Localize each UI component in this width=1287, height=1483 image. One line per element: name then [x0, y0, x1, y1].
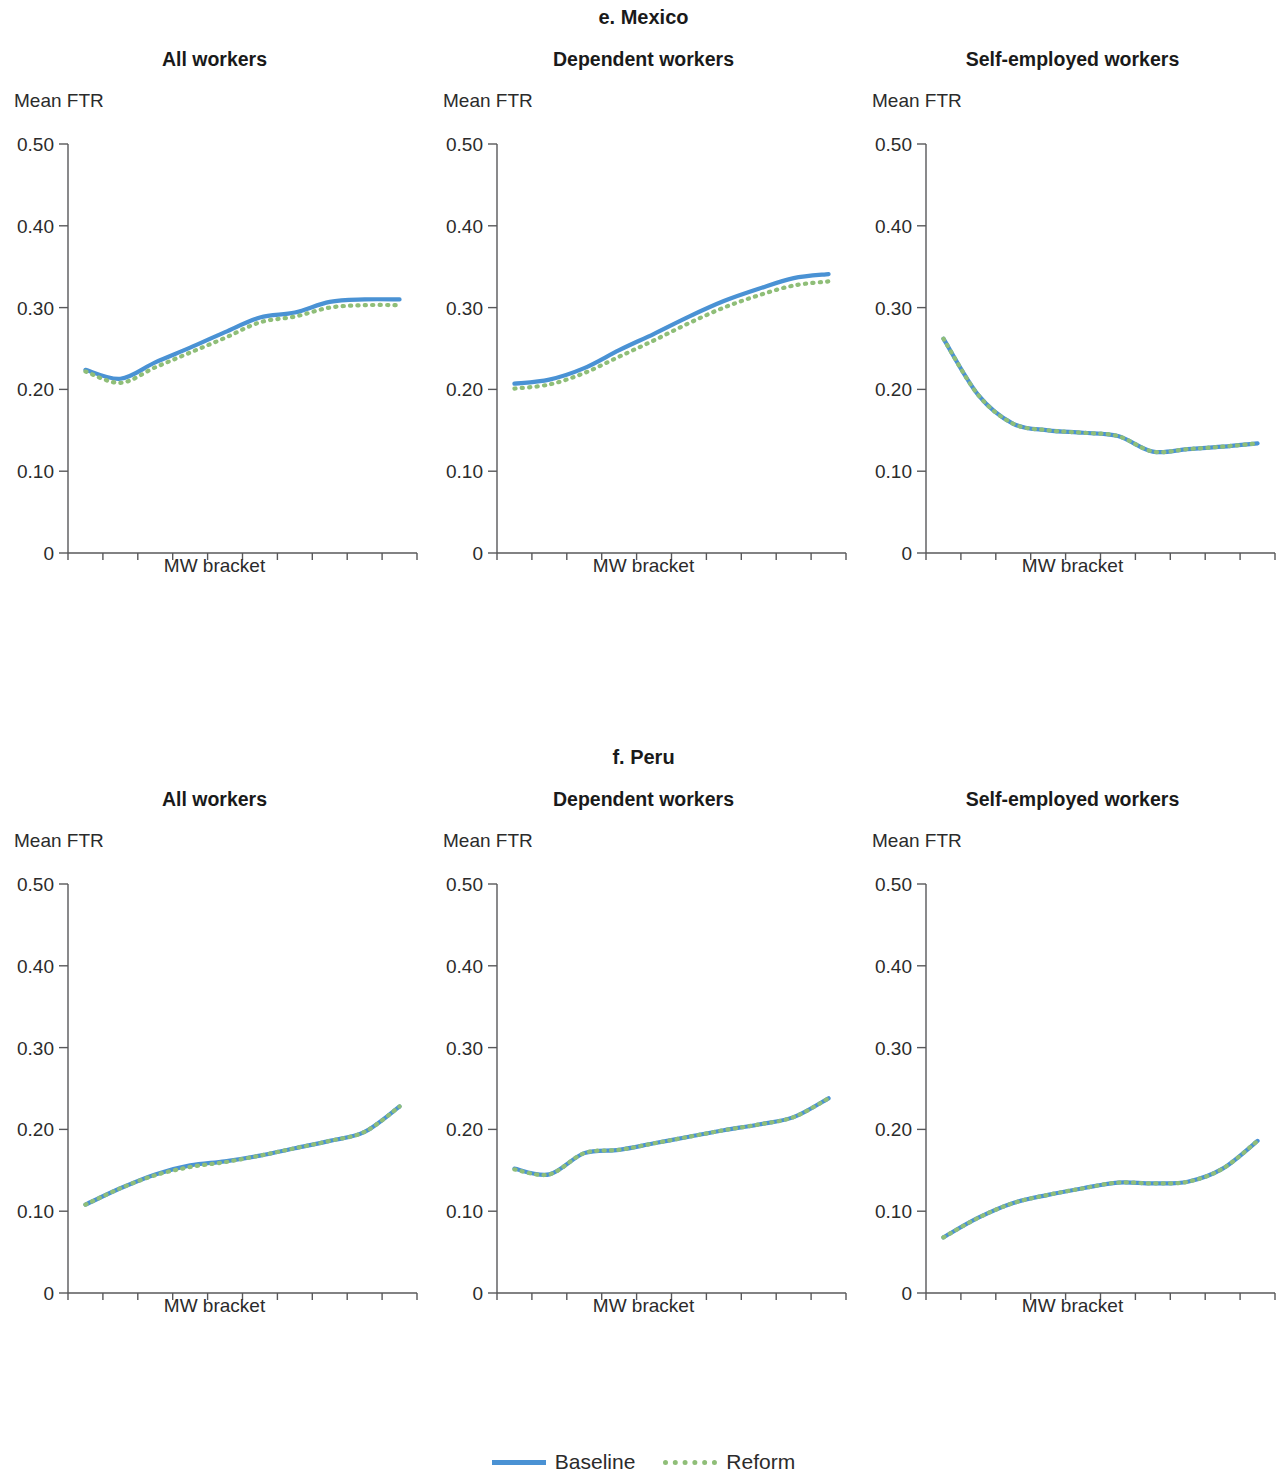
plot-area: 00.100.200.300.400.50[0, 0.5][0.5, 1.0][… [0, 740, 429, 1300]
svg-text:0.40: 0.40 [875, 216, 912, 237]
svg-text:0.20: 0.20 [17, 379, 54, 400]
series-line-baseline [514, 274, 828, 384]
svg-text:0.10: 0.10 [17, 1201, 54, 1222]
series-line-baseline [85, 299, 399, 379]
svg-text:0.30: 0.30 [446, 1038, 483, 1059]
svg-text:0.40: 0.40 [17, 216, 54, 237]
svg-text:0.40: 0.40 [17, 956, 54, 977]
legend-item-baseline: Baseline [492, 1449, 636, 1474]
svg-text:0.40: 0.40 [875, 956, 912, 977]
series-line-baseline [514, 1098, 828, 1175]
svg-text:0.20: 0.20 [446, 379, 483, 400]
x-axis-label: MW bracket [858, 1295, 1287, 1317]
series-line-reform [514, 281, 828, 388]
svg-text:0.50: 0.50 [17, 134, 54, 155]
svg-text:0.50: 0.50 [446, 874, 483, 895]
svg-text:0.30: 0.30 [875, 1038, 912, 1059]
panel-peru-self-employed-workers: Self-employed workers Mean FTR 00.100.20… [858, 740, 1287, 1360]
x-axis-label: MW bracket [858, 555, 1287, 577]
plot-area: 00.100.200.300.400.50[0, 0.5][0.5, 1.0][… [858, 0, 1287, 560]
series-line-baseline [85, 1107, 399, 1205]
svg-text:0.10: 0.10 [875, 461, 912, 482]
svg-text:0.30: 0.30 [17, 298, 54, 319]
svg-text:0.10: 0.10 [17, 461, 54, 482]
svg-text:0.50: 0.50 [875, 874, 912, 895]
svg-text:0.20: 0.20 [17, 1119, 54, 1140]
series-line-baseline [943, 1141, 1257, 1238]
x-axis-label: MW bracket [429, 555, 858, 577]
panel-mexico-self-employed-workers: Self-employed workers Mean FTR 00.100.20… [858, 0, 1287, 620]
svg-text:0.50: 0.50 [17, 874, 54, 895]
plot-area: 00.100.200.300.400.50[0, 0.5][0.5, 1.0][… [0, 0, 429, 560]
svg-text:0.50: 0.50 [446, 134, 483, 155]
panel-peru-dependent-workers: Dependent workers Mean FTR 00.100.200.30… [429, 740, 858, 1360]
svg-text:0.30: 0.30 [17, 1038, 54, 1059]
section-mexico: e. Mexico All workers Mean FTR 00.100.20… [0, 0, 1287, 740]
plot-area: 00.100.200.300.400.50[0, 0.5][0.5, 1.0][… [858, 740, 1287, 1300]
svg-text:0.30: 0.30 [446, 298, 483, 319]
panel-mexico-all-workers: All workers Mean FTR 00.100.200.300.400.… [0, 0, 429, 620]
x-axis-label: MW bracket [0, 555, 429, 577]
series-line-reform [943, 339, 1257, 453]
svg-text:0.40: 0.40 [446, 216, 483, 237]
legend-label-reform: Reform [726, 1450, 795, 1474]
legend-label-baseline: Baseline [555, 1450, 636, 1474]
series-line-reform [85, 1107, 399, 1205]
plot-area: 00.100.200.300.400.50[0, 0.5][0.5, 1.0][… [429, 0, 858, 560]
legend-swatch-baseline-icon [492, 1460, 546, 1465]
panel-peru-all-workers: All workers Mean FTR 00.100.200.300.400.… [0, 740, 429, 1360]
panel-row-peru: All workers Mean FTR 00.100.200.300.400.… [0, 740, 1287, 1440]
section-peru: f. Peru All workers Mean FTR 00.100.200.… [0, 740, 1287, 1440]
svg-text:0.20: 0.20 [875, 379, 912, 400]
series-line-reform [85, 305, 399, 383]
plot-area: 00.100.200.300.400.50[0, 0.5][0.5, 1.0][… [429, 740, 858, 1300]
svg-text:0.50: 0.50 [875, 134, 912, 155]
x-axis-label: MW bracket [0, 1295, 429, 1317]
svg-text:0.10: 0.10 [875, 1201, 912, 1222]
svg-text:0.20: 0.20 [875, 1119, 912, 1140]
svg-text:0.40: 0.40 [446, 956, 483, 977]
legend-item-reform: Reform [663, 1449, 795, 1474]
series-line-reform [943, 1141, 1257, 1238]
x-axis-label: MW bracket [429, 1295, 858, 1317]
panel-mexico-dependent-workers: Dependent workers Mean FTR 00.100.200.30… [429, 0, 858, 620]
figure-legend: Baseline Reform [0, 1448, 1287, 1474]
svg-text:0.10: 0.10 [446, 1201, 483, 1222]
svg-text:0.10: 0.10 [446, 461, 483, 482]
svg-text:0.20: 0.20 [446, 1119, 483, 1140]
series-line-reform [514, 1098, 828, 1175]
panel-row-mexico: All workers Mean FTR 00.100.200.300.400.… [0, 0, 1287, 740]
svg-text:0.30: 0.30 [875, 298, 912, 319]
legend-swatch-reform-icon [663, 1460, 717, 1465]
